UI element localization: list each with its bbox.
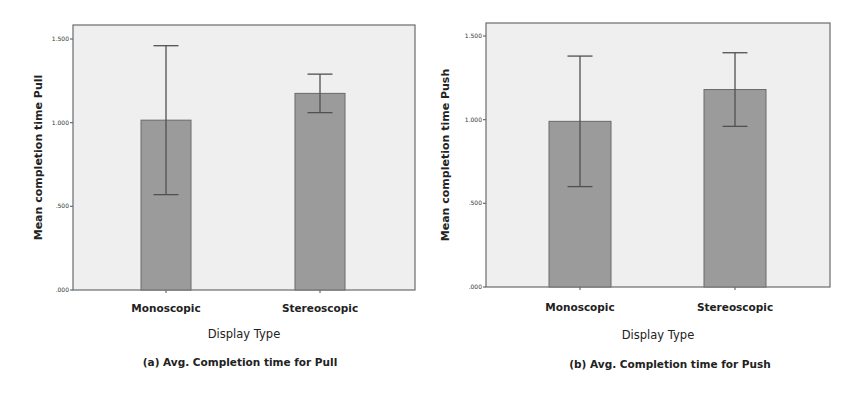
y-tick-label: 1.500	[465, 32, 482, 39]
bar-chart-push: .000.5001.0001.500MonoscopicStereoscopic…	[430, 0, 860, 401]
y-tick-label: .000	[56, 286, 70, 293]
y-tick-label: .000	[469, 283, 483, 290]
y-axis-title: Mean completion time Pull	[32, 75, 45, 241]
plot-area	[486, 23, 830, 287]
y-tick-label: 1.000	[52, 119, 69, 126]
y-tick-label: 1.500	[52, 35, 69, 42]
y-tick-label: .500	[56, 202, 70, 209]
caption-push: (b) Avg. Completion time for Push	[550, 358, 790, 370]
x-category-label: Monoscopic	[131, 302, 200, 314]
x-category-label: Stereoscopic	[282, 302, 358, 314]
plot-area	[73, 25, 415, 290]
caption-pull: (a) Avg. Completion time for Pull	[120, 356, 360, 368]
y-tick-label: .500	[469, 199, 483, 206]
x-axis-title: Display Type	[208, 327, 280, 341]
x-category-label: Monoscopic	[545, 301, 614, 313]
chart-panel-push: .000.5001.0001.500MonoscopicStereoscopic…	[430, 0, 860, 401]
y-tick-label: 1.000	[465, 116, 482, 123]
bar-chart-pull: .000.5001.0001.500MonoscopicStereoscopic…	[0, 0, 430, 401]
x-category-label: Stereoscopic	[697, 301, 773, 313]
chart-panel-pull: .000.5001.0001.500MonoscopicStereoscopic…	[0, 0, 430, 401]
bar-stereoscopic	[295, 93, 345, 290]
x-axis-title: Display Type	[622, 328, 694, 342]
y-axis-title: Mean completion time Push	[439, 69, 452, 241]
